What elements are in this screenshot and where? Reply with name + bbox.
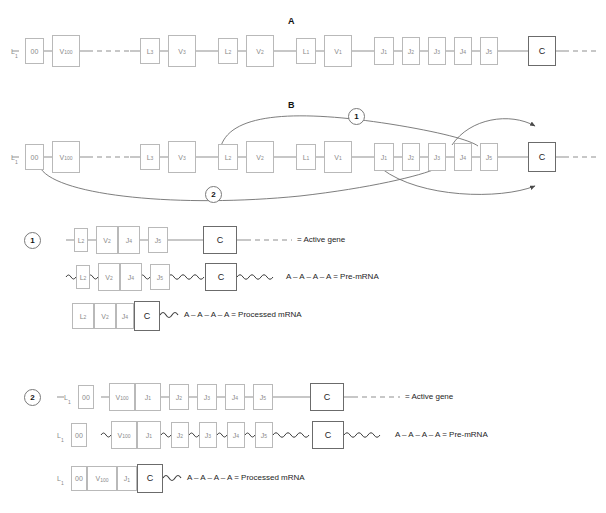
panelB-box-C: C	[528, 142, 556, 172]
s2r1-box-J3: J3	[197, 384, 217, 410]
s2r2-box-J2: J2	[171, 422, 189, 448]
s1r2-box-V2: V2	[98, 263, 120, 291]
panelB-box-V100: V100	[52, 141, 80, 173]
s2r1-box-J4: J4	[225, 384, 245, 410]
s2r3-box-J1: J1	[117, 466, 137, 491]
section2-row3-rna	[163, 476, 181, 481]
s1r3-legend: A – A – A – A = Processed mRNA	[184, 311, 302, 319]
s2r3-box-L100: 00	[71, 466, 87, 491]
s1r3-box-J4: J4	[116, 303, 134, 329]
panelB-box-L1: L1	[296, 144, 316, 170]
s2r1-box-V100: V100	[109, 383, 135, 411]
panelB-L100-lead: L1	[11, 154, 18, 163]
panelA-box-J5: J5	[480, 37, 498, 65]
arc-1-badge: 1	[348, 108, 365, 125]
s2r3-box-C: C	[137, 464, 163, 493]
panelA-box-L3: L3	[140, 38, 160, 64]
figure-canvas: A L1 00 V100 L3 V3 L2 V2 L1 V1 J1 J2 J3 …	[0, 0, 606, 513]
panelB-box-J5: J5	[480, 143, 498, 171]
s2r3-box-V100: V100	[87, 466, 117, 491]
panel-a-label: A	[288, 16, 295, 26]
panelA-box-V100: V100	[52, 35, 80, 67]
section2-badge: 2	[24, 389, 41, 406]
s1r1-box-V2: V2	[96, 226, 118, 254]
panelA-box-J1: J1	[374, 37, 394, 65]
panelB-box-L100: 00	[25, 144, 44, 170]
panelA-box-L1: L1	[296, 38, 316, 64]
panelB-box-V1: V1	[324, 141, 352, 173]
s1r3-box-C: C	[134, 301, 160, 331]
s1r1-box-C: C	[203, 226, 237, 254]
s2r3-L100-lead: L1	[57, 475, 64, 484]
s1r2-box-J5: J5	[150, 264, 170, 290]
s1r2-legend: A – A – A – A = Pre-mRNA	[286, 273, 379, 281]
panelB-box-J4: J4	[454, 143, 472, 171]
s2r2-box-C: C	[312, 421, 344, 449]
s2r1-box-L100: 00	[78, 385, 94, 409]
recombination-arc-2	[41, 168, 535, 201]
s1r2-box-L2: L2	[76, 265, 90, 289]
s1r1-box-L2: L2	[74, 228, 88, 252]
panelB-box-V2: V2	[246, 141, 274, 173]
s2r1-box-J1: J1	[135, 383, 161, 411]
panelB-box-J1: J1	[374, 143, 394, 171]
s2r1-L100-lead: L1	[64, 394, 71, 403]
s1r1-box-J5: J5	[148, 227, 168, 253]
s2r2-legend: A – A – A – A = Pre-mRNA	[395, 431, 488, 439]
panelA-box-J2: J2	[402, 37, 420, 65]
s2r2-box-V100: V100	[111, 421, 137, 449]
s2r2-L100-lead: L1	[57, 432, 64, 441]
panelA-box-J4: J4	[454, 37, 472, 65]
connector-layer	[0, 0, 606, 513]
panelA-box-L2: L2	[218, 38, 238, 64]
panelB-box-L2: L2	[218, 144, 238, 170]
s2r2-box-J3: J3	[199, 422, 217, 448]
s1r1-box-J4: J4	[118, 226, 140, 254]
s1r2-box-J4: J4	[120, 263, 142, 291]
panelA-box-V3: V3	[168, 35, 196, 67]
panelA-box-L100: 00	[25, 38, 44, 64]
panelB-box-J3: J3	[428, 143, 446, 171]
panelB-box-J2: J2	[402, 143, 420, 171]
panelA-box-J3: J3	[428, 37, 446, 65]
panelA-box-V2: V2	[246, 35, 274, 67]
panelB-box-V3: V3	[168, 141, 196, 173]
s2r2-box-J4: J4	[227, 422, 245, 448]
s2r1-box-J5: J5	[253, 384, 273, 410]
arc-2-badge: 2	[205, 186, 222, 203]
s2r1-box-J2: J2	[169, 384, 189, 410]
s2r2-box-J1: J1	[137, 421, 161, 449]
s2r2-box-J5: J5	[255, 422, 273, 448]
panelA-box-C: C	[528, 36, 556, 66]
s2r3-legend: A – A – A – A = Processed mRNA	[187, 474, 305, 482]
s1r3-box-V2: V2	[94, 303, 116, 329]
s2r2-box-L100: 00	[71, 423, 87, 447]
panelB-box-L3: L3	[140, 144, 160, 170]
section1-badge: 1	[24, 232, 41, 249]
s2r1-legend: = Active gene	[405, 393, 453, 401]
panel-b-label: B	[288, 100, 295, 110]
panelA-box-V1: V1	[324, 35, 352, 67]
s1r1-legend: = Active gene	[297, 236, 345, 244]
panelA-L100-lead: L1	[11, 48, 18, 57]
s1r2-box-C: C	[205, 263, 237, 291]
section1-row3-rna	[160, 313, 178, 318]
s1r3-box-L2: L2	[72, 303, 94, 329]
s2r1-box-C: C	[310, 383, 344, 411]
